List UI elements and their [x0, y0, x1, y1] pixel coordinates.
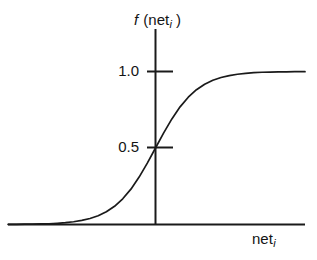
x-axis-label-main: net	[252, 230, 273, 247]
y-tick-label-1.0: 1.0	[97, 63, 139, 78]
y-axis-label-open: (net	[139, 11, 169, 28]
x-axis-label: neti	[252, 231, 276, 249]
y-axis-label-close: )	[172, 11, 181, 28]
y-axis-label: f (neti )	[134, 12, 181, 30]
sigmoid-figure: f (neti ) 1.0 0.5 neti	[0, 0, 317, 260]
plot-canvas	[0, 0, 317, 260]
x-axis-label-subscript: i	[273, 237, 276, 249]
y-tick-label-0.5: 0.5	[97, 139, 139, 154]
